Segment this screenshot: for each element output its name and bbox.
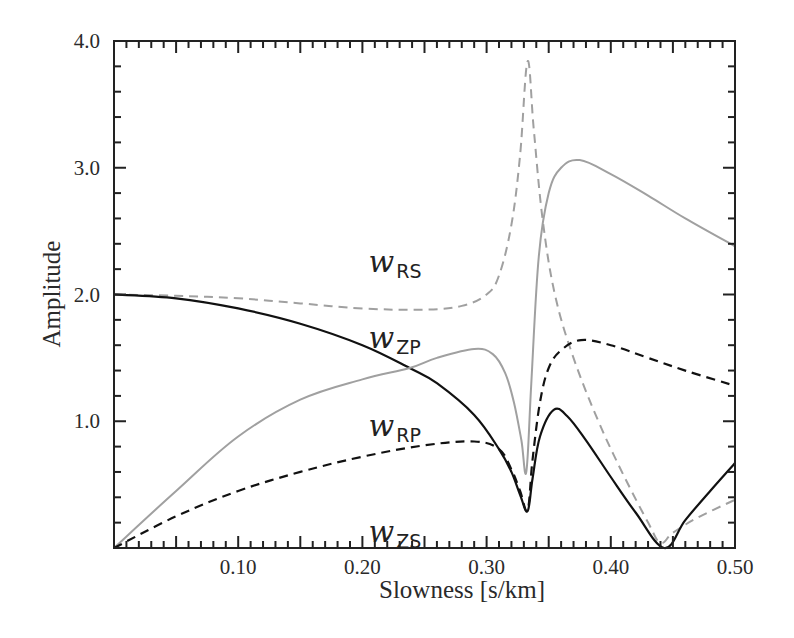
curve-w-rp — [114, 160, 735, 548]
label-w-zp: wZP — [369, 320, 421, 358]
curve-w-zs — [114, 340, 735, 548]
y-tick-label: 2.0 — [74, 283, 100, 307]
y-tick-label: 1.0 — [74, 409, 100, 433]
y-axis-tick-labels: 1.02.03.04.0 — [74, 29, 100, 433]
x-tick-label: 0.10 — [220, 555, 257, 579]
y-tick-label: 3.0 — [74, 156, 100, 180]
x-tick-label: 0.50 — [717, 555, 754, 579]
label-w-zs: wZS — [369, 514, 422, 552]
y-tick-label: 4.0 — [74, 29, 100, 53]
label-w-rs: wRS — [369, 244, 422, 282]
x-tick-label: 0.20 — [344, 555, 381, 579]
x-tick-label: 0.40 — [592, 555, 629, 579]
x-axis-title: Slowness [s/km] — [379, 576, 545, 603]
y-axis-title: Amplitude — [38, 241, 65, 348]
plot-frame — [114, 41, 735, 548]
curve-labels: wRSwZPwRPwZS — [369, 244, 422, 552]
plot-curves — [114, 61, 735, 548]
amplitude-chart: wRSwZPwRPwZS 0.100.200.300.400.50 1.02.0… — [0, 0, 794, 638]
axis-ticks — [114, 41, 735, 548]
label-w-rp: wRP — [369, 408, 421, 446]
